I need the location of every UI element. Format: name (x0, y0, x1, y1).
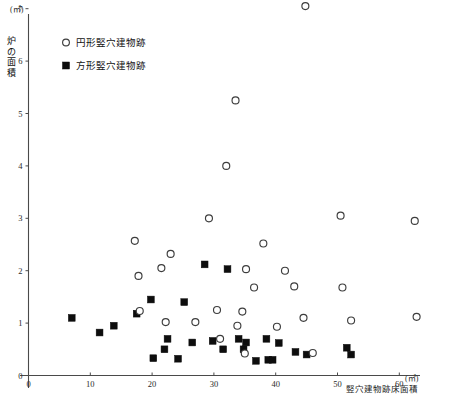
data-point-circle (213, 307, 220, 314)
data-point-square (164, 335, 171, 342)
data-point-circle (337, 212, 344, 219)
data-point-square (343, 344, 350, 351)
data-point-circle (411, 217, 418, 224)
data-point-circle (273, 323, 280, 330)
y-tick-group: 01234567 (18, 4, 28, 381)
data-point-circle (192, 319, 199, 326)
data-point-circle (223, 162, 230, 169)
data-point-circle (205, 215, 212, 222)
data-point-square (348, 351, 355, 358)
data-point-circle (339, 284, 346, 291)
data-point-circle (136, 308, 143, 315)
data-point-circle (281, 267, 288, 274)
data-point-circle (162, 319, 169, 326)
series-circle-points (131, 3, 420, 357)
data-point-square (235, 335, 242, 342)
data-point-square (189, 339, 196, 346)
data-point-circle (291, 283, 298, 290)
y-tick-label: 6 (18, 56, 22, 66)
data-point-circle (413, 313, 420, 320)
y-tick-label: 2 (18, 266, 22, 276)
y-tick-label: 1 (18, 318, 22, 328)
data-point-square (224, 266, 231, 273)
data-point-square (201, 261, 208, 268)
data-point-circle (300, 314, 307, 321)
legend-square-marker (63, 62, 70, 69)
data-point-circle (239, 308, 246, 315)
data-point-square (292, 349, 299, 356)
data-point-circle (302, 3, 309, 10)
data-point-circle (158, 265, 165, 272)
data-point-square (175, 355, 182, 362)
x-axis-unit: (㎡) (405, 374, 419, 383)
data-point-square (110, 322, 117, 329)
series-square-points (68, 261, 354, 364)
x-axis-title: 竪穴建物跡床面積 (346, 384, 418, 394)
y-tick-label: 0 (18, 371, 22, 381)
data-point-circle (217, 335, 224, 342)
data-point-square (68, 314, 75, 321)
data-point-square (161, 346, 168, 353)
legend-circle-marker (63, 39, 70, 46)
data-point-square (263, 335, 270, 342)
data-point-square (269, 356, 276, 363)
scatter-plot-figure: 炉 の 面 積 01234567 0102030405060 (㎡) (㎡) 竪… (0, 0, 454, 407)
data-point-circle (167, 250, 174, 257)
data-point-circle (243, 266, 250, 273)
data-point-circle (348, 317, 355, 324)
data-point-circle (241, 350, 248, 357)
data-point-square (181, 299, 188, 306)
y-tick-label: 4 (18, 161, 23, 171)
x-tick-label: 20 (148, 379, 157, 389)
x-tick-label: 50 (333, 379, 342, 389)
data-point-square (243, 339, 250, 346)
x-tick-label: 30 (210, 379, 219, 389)
data-point-square (147, 296, 154, 303)
data-point-circle (135, 272, 142, 279)
data-point-square (209, 338, 216, 345)
plot-canvas: 01234567 0102030405060 (㎡) (㎡) 竪穴建物跡床面積 … (0, 0, 454, 407)
y-tick-label: 3 (18, 213, 22, 223)
x-tick-label: 40 (271, 379, 280, 389)
data-point-circle (260, 240, 267, 247)
y-tick-label: 5 (18, 109, 22, 119)
legend: 円形竪穴建物跡 方形竪穴建物跡 (63, 37, 147, 71)
legend-label-square: 方形竪穴建物跡 (76, 60, 146, 71)
legend-label-circle: 円形竪穴建物跡 (76, 37, 146, 48)
data-point-square (96, 329, 103, 336)
data-point-circle (251, 284, 258, 291)
data-point-circle (234, 322, 241, 329)
data-point-circle (232, 97, 239, 104)
data-point-square (275, 340, 282, 347)
x-tick-label: 10 (86, 379, 95, 389)
x-tick-label: 0 (26, 379, 30, 389)
data-point-square (253, 357, 260, 364)
y-axis-unit: (㎡) (10, 5, 24, 14)
data-point-circle (309, 349, 316, 356)
data-point-square (220, 346, 227, 353)
data-point-circle (131, 237, 138, 244)
data-point-square (150, 355, 157, 362)
